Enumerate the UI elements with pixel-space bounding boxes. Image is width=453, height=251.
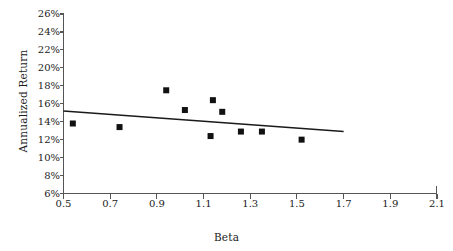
x-axis-title: Beta	[0, 231, 453, 243]
data-point-marker	[163, 87, 169, 93]
x-tick-label: 1.1	[184, 198, 224, 209]
data-point-marker	[210, 97, 216, 103]
data-markers	[70, 87, 305, 142]
data-point-marker	[259, 129, 265, 135]
plot-canvas	[0, 0, 453, 251]
data-point-marker	[182, 107, 188, 113]
data-point-marker	[219, 109, 225, 115]
data-point-marker	[299, 137, 305, 143]
data-point-marker	[238, 129, 244, 135]
data-point-marker	[208, 133, 214, 139]
x-tick-label: 0.5	[44, 198, 84, 209]
x-tick-label: 1.9	[370, 198, 410, 209]
x-tick-label: 0.7	[90, 198, 130, 209]
trend-line	[64, 111, 344, 132]
data-point-marker	[117, 124, 123, 130]
trend-line-group	[64, 111, 344, 132]
x-tick-label: 1.7	[324, 198, 364, 209]
axes	[64, 14, 438, 194]
x-tick-label: 1.3	[230, 198, 270, 209]
x-tick-label: 1.5	[277, 198, 317, 209]
data-point-marker	[70, 120, 76, 126]
x-tick-label: 0.9	[137, 198, 177, 209]
scatter-chart: Annualized Return 6%8%10%12%14%16%18%20%…	[0, 0, 453, 251]
x-tick-label: 2.1	[417, 198, 453, 209]
y-tick-marks	[60, 14, 64, 194]
